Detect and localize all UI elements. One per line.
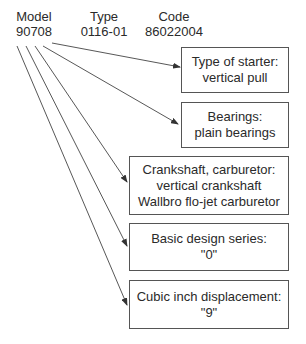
crankshaft-value: vertical crankshaft [130, 178, 288, 194]
design-series-value: "0" [130, 247, 288, 263]
model-label: Model [4, 9, 64, 24]
arrow-to-crankshaft [35, 46, 127, 182]
bearings-box: Bearings: plain bearings [181, 102, 289, 148]
starter-value: vertical pull [182, 70, 288, 86]
design-series-title: Basic design series: [130, 231, 288, 247]
starter-box: Type of starter: vertical pull [181, 47, 289, 93]
arrow-to-design-series [26, 46, 127, 246]
starter-title: Type of starter: [182, 54, 288, 70]
arrow-to-bearings [43, 46, 178, 124]
design-series-box: Basic design series: "0" [129, 223, 289, 271]
bearings-title: Bearings: [182, 109, 288, 125]
bearings-value: plain bearings [182, 125, 288, 141]
arrow-to-starter [52, 43, 180, 67]
model-value: 90708 [4, 24, 64, 39]
code-label: Code [144, 9, 204, 24]
displacement-box: Cubic inch displacement: "9" [129, 280, 289, 329]
code-value: 86022004 [140, 24, 208, 39]
type-label: Type [74, 9, 134, 24]
crankshaft-title: Crankshaft, carburetor: [130, 162, 288, 178]
carburetor-value: Wallbro flo-jet carburetor [130, 194, 288, 210]
crankshaft-box: Crankshaft, carburetor: vertical cranksh… [129, 156, 289, 215]
displacement-title: Cubic inch displacement: [130, 289, 288, 305]
type-value: 0116-01 [74, 24, 134, 39]
displacement-value: "9" [130, 305, 288, 321]
